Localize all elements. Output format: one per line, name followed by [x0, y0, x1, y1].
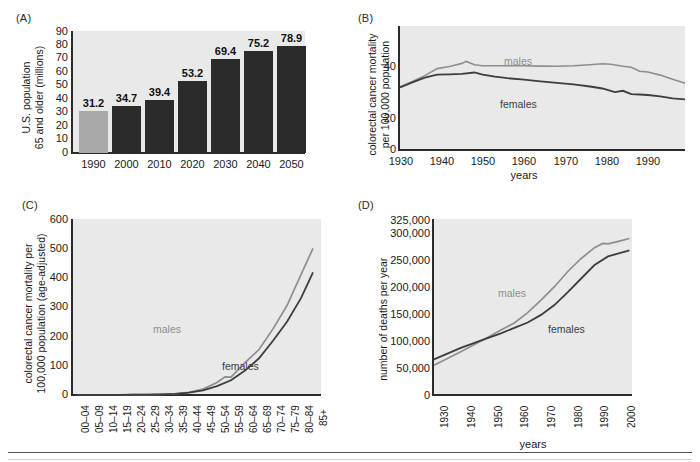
panel-a-ytick-10: 10 — [48, 132, 68, 144]
panel-d-xtick-1940: 1940 — [466, 406, 477, 428]
panel-b-label-females: females — [500, 98, 537, 110]
bar-value-2030: 69.4 — [211, 45, 240, 57]
panel-b-y-axis-label-line1: colorectal cancer mortality — [366, 34, 378, 156]
panel-d-ytick-300000: 300,000 — [378, 227, 430, 239]
panel-c-xtick-11: 55–59 — [234, 405, 245, 433]
panel-c: (C) colorectal cancer mortality per 100,… — [0, 195, 350, 462]
panel-d-ytick-50000: 50,000 — [378, 362, 430, 374]
panel-c-xtick-0: 00–04 — [80, 405, 91, 433]
bar-value-2010: 39.4 — [145, 86, 174, 98]
panel-d-ytick-250000: 250,000 — [378, 254, 430, 266]
panel-b-y-axis-label: colorectal cancer mortality per 100,000 … — [366, 30, 391, 160]
panel-b-label-males: males — [504, 55, 532, 67]
panel-a-y-axis — [71, 31, 73, 153]
panel-d-lines — [434, 219, 632, 395]
bar-2010[interactable] — [145, 100, 174, 154]
panel-a-xtick-2050: 2050 — [272, 158, 311, 170]
panel-d-label: (D) — [358, 199, 374, 211]
panel-d-xtick-1990: 1990 — [599, 406, 610, 428]
panel-a-ytick-20: 20 — [48, 119, 68, 131]
panel-b-xtick-1940: 1940 — [423, 155, 461, 167]
panel-c-xtick-16: 80–84 — [304, 405, 315, 433]
panel-d-xtick-1970: 1970 — [546, 406, 557, 428]
panel-b-y-axis-label-line2: per 100,000 population — [378, 41, 390, 148]
bar-value-2050: 78.9 — [277, 32, 306, 44]
bar-value-2040: 75.2 — [244, 37, 273, 49]
panel-a-ytick-50: 50 — [48, 78, 68, 90]
panel-a-ytick-80: 80 — [48, 38, 68, 50]
panel-c-ytick-600: 600 — [40, 213, 68, 225]
panel-c-label: (C) — [22, 199, 38, 211]
panel-b: (B) colorectal cancer mortality per 100,… — [350, 0, 700, 195]
panel-b-xtick-1970: 1970 — [547, 155, 585, 167]
panel-d-xtick-2000: 2000 — [626, 406, 637, 428]
panel-c-xtick-8: 40–44 — [192, 405, 203, 433]
panel-d-ytick-200000: 200,000 — [378, 281, 430, 293]
panel-a-y-axis-label: U.S. population 65 and older (millions) — [20, 38, 45, 158]
panel-c-ytick-100: 100 — [40, 359, 68, 371]
panel-a-label: (A) — [16, 12, 31, 24]
panel-b-x-axis-label: years — [505, 169, 543, 181]
panel-c-label-females: females — [222, 360, 259, 372]
panel-c-ytick-300: 300 — [40, 300, 68, 312]
panel-c-ytick-200: 200 — [40, 330, 68, 342]
panel-b-lines — [400, 26, 685, 150]
panel-d-label-males: males — [498, 287, 526, 299]
bar-value-1990: 31.2 — [79, 97, 108, 109]
panel-c-lines — [73, 219, 321, 395]
panel-d-label-females: females — [548, 323, 585, 335]
panel-a-ytick-60: 60 — [48, 65, 68, 77]
panel-b-xtick-1990: 1990 — [629, 155, 667, 167]
panel-b-ytick-40: 40 — [376, 60, 396, 72]
panel-c-ytick-400: 400 — [40, 271, 68, 283]
panel-b-series-females — [400, 73, 685, 100]
panel-c-xtick-14: 70–74 — [276, 405, 287, 433]
panel-a-y-axis-label-line1: U.S. population — [20, 62, 32, 134]
panel-a-ytick-0: 0 — [48, 146, 68, 158]
panel-d-xtick-1930: 1930 — [439, 406, 450, 428]
panel-d-series-females — [434, 250, 629, 359]
bar-2000[interactable] — [112, 106, 141, 153]
bar-2050[interactable] — [277, 46, 306, 153]
panel-c-y-axis-label-line1: colorectal cancer mortality per — [22, 243, 34, 383]
panel-c-xtick-1: 05–09 — [94, 405, 105, 433]
panel-c-xtick-10: 50–54 — [220, 405, 231, 433]
panel-d-ytick-150000: 150,000 — [378, 308, 430, 320]
panel-c-xtick-13: 65–69 — [262, 405, 273, 433]
panel-c-xtick-2: 10–14 — [108, 405, 119, 433]
panel-d-xtick-1950: 1950 — [493, 406, 504, 428]
panel-b-ytick-0: 0 — [376, 143, 396, 155]
bar-value-2000: 34.7 — [112, 92, 141, 104]
panel-c-xtick-5: 25–29 — [150, 405, 161, 433]
panel-b-xtick-1930: 1930 — [382, 155, 420, 167]
panel-c-xtick-15: 75–79 — [290, 405, 301, 433]
bar-1990[interactable] — [79, 111, 108, 153]
figure-bottom-rule-secondary — [8, 459, 692, 460]
panel-c-xtick-4: 20–24 — [136, 405, 147, 433]
panel-c-xtick-17: 85+ — [318, 409, 329, 426]
panel-d: (D) number of deaths per year 325,000 30… — [350, 195, 700, 462]
panel-c-xtick-6: 30–34 — [164, 405, 175, 433]
panel-c-ytick-0: 0 — [40, 388, 68, 400]
panel-d-ytick-100000: 100,000 — [378, 335, 430, 347]
panel-d-xtick-1960: 1960 — [519, 406, 530, 428]
panel-c-xtick-12: 60–64 — [248, 405, 259, 433]
panel-d-ytick-325000: 325,000 — [378, 214, 430, 226]
panel-c-ytick-500: 500 — [40, 242, 68, 254]
panel-a-ytick-90: 90 — [48, 25, 68, 37]
bar-2030[interactable] — [211, 59, 240, 153]
bar-2040[interactable] — [244, 51, 273, 153]
panel-c-series-females — [77, 272, 313, 395]
panel-b-ytick-20: 20 — [376, 112, 396, 124]
panel-c-xtick-7: 35–39 — [178, 405, 189, 433]
panel-b-label: (B) — [358, 12, 373, 24]
panel-d-ytick-0: 0 — [378, 389, 430, 401]
panel-a-ytick-40: 40 — [48, 92, 68, 104]
panel-d-xtick-1980: 1980 — [573, 406, 584, 428]
bar-value-2020: 53.2 — [178, 67, 207, 79]
panel-c-xtick-9: 45–49 — [206, 405, 217, 433]
panel-a-ytick-70: 70 — [48, 51, 68, 63]
panel-c-series-males — [77, 248, 313, 395]
figure-bottom-rule — [8, 452, 692, 453]
bar-2020[interactable] — [178, 81, 207, 153]
